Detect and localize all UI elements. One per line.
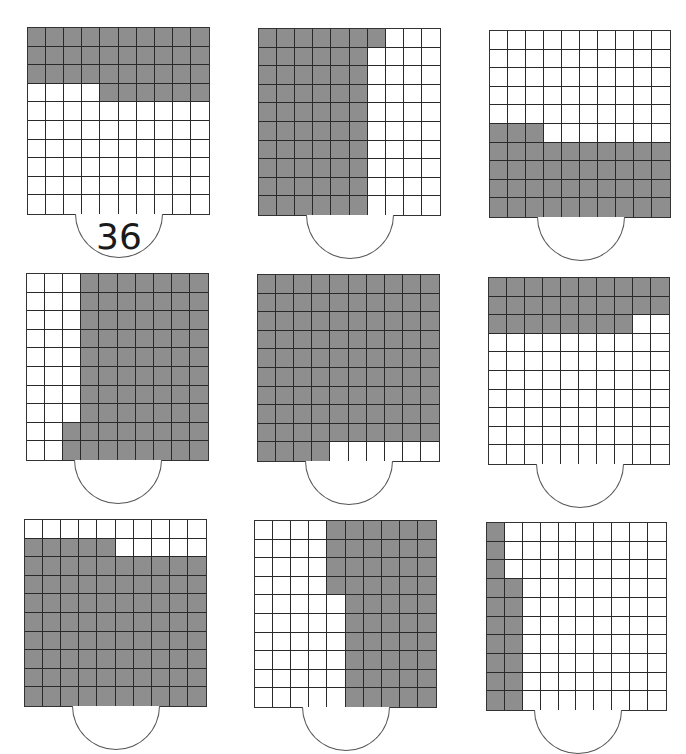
grid-cell bbox=[422, 178, 440, 197]
grid-cell bbox=[364, 558, 382, 577]
grid-cell bbox=[118, 404, 136, 423]
grid-cell bbox=[579, 445, 597, 464]
grid-cell bbox=[490, 198, 508, 217]
grid-cell bbox=[46, 158, 64, 177]
grid-cell bbox=[309, 633, 327, 652]
grid-cell bbox=[652, 105, 670, 124]
grid-cell bbox=[364, 688, 382, 707]
grid-cell bbox=[634, 105, 652, 124]
grid-cell bbox=[25, 687, 43, 706]
grid-cell bbox=[81, 348, 99, 367]
grid-cell bbox=[172, 311, 190, 330]
grid-cell bbox=[525, 297, 543, 316]
grid-cell bbox=[367, 368, 385, 387]
grid-cell bbox=[137, 65, 155, 84]
grid-cell bbox=[118, 274, 136, 293]
grid-cell bbox=[45, 441, 63, 460]
grid-cell bbox=[612, 673, 630, 692]
grid-cell bbox=[97, 594, 115, 613]
grid-cell bbox=[612, 579, 630, 598]
grid-cell bbox=[421, 368, 439, 387]
grid-cell bbox=[136, 293, 154, 312]
answer-semicircle-1[interactable]: 36 bbox=[75, 214, 163, 258]
grid-cell bbox=[43, 650, 61, 669]
grid-cell bbox=[652, 68, 670, 87]
grid-cell bbox=[616, 124, 634, 143]
grid-cell bbox=[170, 669, 188, 688]
grid-cell bbox=[276, 387, 294, 406]
grid-cell bbox=[598, 105, 616, 124]
grid-cell bbox=[27, 386, 45, 405]
grid-cell bbox=[28, 47, 46, 66]
grid-cell bbox=[400, 521, 418, 540]
grid-cell bbox=[594, 617, 612, 636]
grid-cell bbox=[579, 408, 597, 427]
answer-semicircle-3[interactable] bbox=[537, 217, 625, 261]
grid-cell bbox=[327, 614, 345, 633]
grid-cell bbox=[43, 576, 61, 595]
grid-cell bbox=[422, 85, 440, 104]
grid-cell bbox=[43, 669, 61, 688]
grid-cell bbox=[172, 404, 190, 423]
grid-cell bbox=[403, 349, 421, 368]
answer-semicircle-6[interactable] bbox=[536, 464, 624, 508]
grid-cell bbox=[273, 521, 291, 540]
grid-cell bbox=[173, 177, 191, 196]
answer-semicircle-8[interactable] bbox=[302, 707, 390, 751]
grid-cell bbox=[25, 520, 43, 539]
grid-cell bbox=[559, 635, 577, 654]
grid-cell bbox=[368, 29, 386, 48]
grid-cell bbox=[615, 427, 633, 446]
grid-cell bbox=[349, 368, 367, 387]
grid-cell bbox=[79, 539, 97, 558]
grid-cell bbox=[330, 312, 348, 331]
grid-cell bbox=[543, 371, 561, 390]
grid-cell bbox=[291, 558, 309, 577]
grid-cell bbox=[191, 65, 209, 84]
grid-cell bbox=[562, 87, 580, 106]
grid-cell bbox=[152, 576, 170, 595]
grid-cell bbox=[190, 386, 208, 405]
grid-cell bbox=[490, 143, 508, 162]
grid-cell bbox=[309, 614, 327, 633]
answer-semicircle-4[interactable] bbox=[74, 460, 162, 504]
answer-semicircle-2[interactable] bbox=[306, 215, 394, 259]
grid-cell bbox=[349, 424, 367, 443]
answer-semicircle-5[interactable] bbox=[305, 461, 393, 505]
hundred-grid-7 bbox=[24, 519, 207, 707]
grid-cell bbox=[633, 297, 651, 316]
grid-cell bbox=[615, 352, 633, 371]
grid-cell bbox=[97, 539, 115, 558]
grid-cell bbox=[612, 654, 630, 673]
grid-cell bbox=[313, 196, 331, 215]
grid-cell bbox=[291, 614, 309, 633]
grid-cell bbox=[580, 31, 598, 50]
grid-cell bbox=[191, 195, 209, 214]
grid-cell bbox=[349, 294, 367, 313]
grid-cell bbox=[64, 195, 82, 214]
grid-cell bbox=[295, 141, 313, 160]
grid-cell bbox=[562, 180, 580, 199]
grid-cell bbox=[648, 673, 666, 692]
grid-cell bbox=[118, 293, 136, 312]
grid-cell bbox=[97, 613, 115, 632]
grid-cell bbox=[82, 102, 100, 121]
grid-cell bbox=[579, 278, 597, 297]
grid-cell bbox=[313, 103, 331, 122]
grid-cell bbox=[82, 177, 100, 196]
grid-cell bbox=[134, 576, 152, 595]
grid-cell bbox=[580, 124, 598, 143]
grid-cell bbox=[505, 598, 523, 617]
grid-cell bbox=[579, 334, 597, 353]
answer-semicircle-9[interactable] bbox=[534, 710, 622, 754]
grid-cell bbox=[594, 635, 612, 654]
grid-cell bbox=[541, 673, 559, 692]
grid-cell bbox=[385, 368, 403, 387]
grid-cell bbox=[648, 635, 666, 654]
grid-cell bbox=[27, 293, 45, 312]
grid-cell bbox=[100, 195, 118, 214]
grid-cell bbox=[598, 161, 616, 180]
grid-cell bbox=[634, 87, 652, 106]
grid-cell bbox=[562, 50, 580, 69]
answer-semicircle-7[interactable] bbox=[72, 706, 160, 750]
